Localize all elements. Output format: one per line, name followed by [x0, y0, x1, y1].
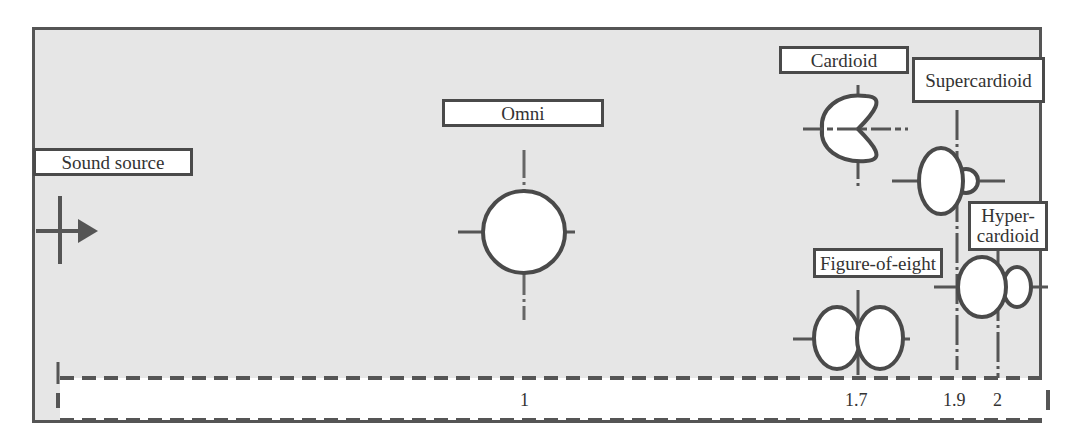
- hypercardioid-label-line1: Hyper-: [981, 206, 1034, 226]
- scale-value-figure-of-eight: 1.7: [845, 390, 868, 411]
- heart-pattern-icon: [803, 85, 908, 188]
- omni-label: Omni: [442, 99, 604, 127]
- circle-pattern-icon: [458, 150, 575, 320]
- hypercardioid-label: Hyper- cardioid: [968, 201, 1048, 251]
- figure-eight-pattern-icon: [793, 290, 910, 375]
- sound-source-label: Sound source: [33, 148, 193, 176]
- scale-value-hypercardioid: 2: [993, 390, 1002, 411]
- figure-of-eight-label: Figure-of-eight: [813, 248, 943, 278]
- hypercardioid-pattern-icon: [934, 250, 1048, 378]
- distance-scale-band: [58, 362, 1050, 420]
- hypercardioid-label-line2: cardioid: [977, 226, 1039, 246]
- crosshair-arrow-right-icon: [36, 196, 98, 264]
- supercardioid-label: Supercardioid: [912, 57, 1045, 103]
- scale-value-omni: 1: [520, 390, 529, 411]
- cardioid-label: Cardioid: [779, 46, 909, 74]
- scale-value-supercardioid: 1.9: [943, 390, 966, 411]
